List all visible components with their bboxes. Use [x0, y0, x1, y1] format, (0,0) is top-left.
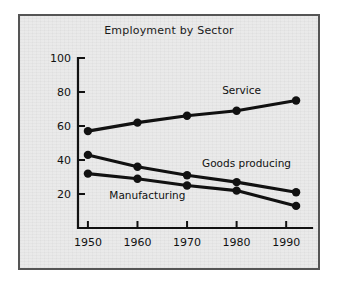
series-data-point — [292, 96, 300, 104]
y-axis-tick-labels: 20406080100 — [50, 52, 71, 201]
series-data-point — [183, 171, 191, 179]
series-data-point — [84, 151, 92, 159]
y-tick-label: 40 — [57, 154, 71, 167]
series-label: Goods producing — [202, 157, 291, 169]
y-tick-label: 20 — [57, 188, 71, 201]
series-data-point — [133, 118, 141, 126]
series-data-point — [232, 178, 240, 186]
y-tick-label: 80 — [57, 86, 71, 99]
chart-plot-area: ServiceGoods producingManufacturing 2040… — [20, 16, 318, 268]
x-tick-label: 1970 — [173, 236, 201, 249]
series-data-point — [133, 175, 141, 183]
figure-frame: Employment by Sector ServiceGoods produc… — [18, 14, 320, 270]
series-label: Service — [222, 84, 261, 96]
series-data-point — [292, 202, 300, 210]
series-data-point — [292, 188, 300, 196]
x-tick-label: 1990 — [272, 236, 300, 249]
series-data-point — [133, 163, 141, 171]
series-line — [88, 101, 296, 132]
y-tick-label: 100 — [50, 52, 71, 65]
series-data-point — [183, 112, 191, 120]
series-labels-container: ServiceGoods producingManufacturing — [109, 84, 291, 201]
series-data-point — [84, 127, 92, 135]
x-tick-label: 1960 — [123, 236, 151, 249]
x-tick-label: 1950 — [74, 236, 102, 249]
series-data-point — [232, 186, 240, 194]
y-tick-label: 60 — [57, 120, 71, 133]
series-data-point — [84, 169, 92, 177]
x-axis-tick-labels: 19501960197019801990 — [74, 236, 300, 249]
series-label: Manufacturing — [109, 189, 185, 201]
series-data-point — [232, 107, 240, 115]
x-tick-label: 1980 — [223, 236, 251, 249]
